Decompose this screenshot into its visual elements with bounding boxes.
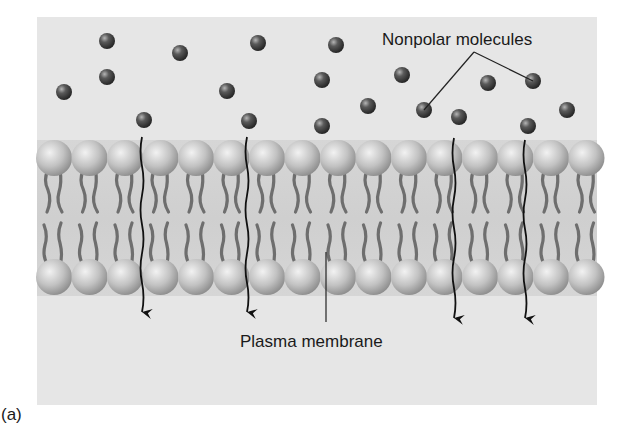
panel-label: (a): [1, 405, 22, 425]
phospholipid-head: [285, 140, 321, 176]
phospholipid-head: [320, 140, 356, 176]
phospholipid-head: [356, 140, 392, 176]
nonpolar-molecules-label: Nonpolar molecules: [382, 30, 532, 50]
nonpolar-molecule: [480, 75, 496, 91]
phospholipid-head: [462, 259, 498, 295]
phospholipid-head: [533, 259, 569, 295]
nonpolar-molecule: [99, 69, 115, 85]
nonpolar-molecule: [559, 102, 575, 118]
nonpolar-molecule: [394, 67, 410, 83]
nonpolar-molecule: [56, 84, 72, 100]
phospholipid-head: [178, 259, 214, 295]
nonpolar-molecule: [520, 118, 536, 134]
nonpolar-molecule: [360, 98, 376, 114]
phospholipid-head: [498, 140, 534, 176]
nonpolar-molecule: [99, 33, 115, 49]
phospholipid-head: [107, 259, 143, 295]
phospholipid-head: [143, 140, 179, 176]
plasma-membrane-label: Plasma membrane: [240, 332, 383, 352]
phospholipid-head: [143, 259, 179, 295]
phospholipid-head: [36, 140, 72, 176]
phospholipid-head: [391, 259, 427, 295]
nonpolar-molecule: [241, 113, 257, 129]
nonpolar-molecule: [219, 83, 235, 99]
phospholipid-head: [391, 140, 427, 176]
phospholipid-head: [249, 140, 285, 176]
phospholipid-head: [249, 259, 285, 295]
membrane-diffusion-diagram: [0, 0, 621, 430]
nonpolar-molecule: [328, 37, 344, 53]
phospholipid-head: [569, 259, 605, 295]
nonpolar-molecule: [250, 35, 266, 51]
nonpolar-molecule: [314, 118, 330, 134]
phospholipid-head: [498, 259, 534, 295]
phospholipid-head: [533, 140, 569, 176]
phospholipid-head: [72, 140, 108, 176]
phospholipid-head: [36, 259, 72, 295]
phospholipid-head: [569, 140, 605, 176]
phospholipid-head: [427, 259, 463, 295]
nonpolar-molecule: [451, 109, 467, 125]
phospholipid-head: [72, 259, 108, 295]
phospholipid-head: [356, 259, 392, 295]
nonpolar-molecule: [314, 72, 330, 88]
phospholipid-head: [178, 140, 214, 176]
phospholipid-head: [214, 259, 250, 295]
phospholipid-head: [214, 140, 250, 176]
phospholipid-head: [427, 140, 463, 176]
nonpolar-molecule: [136, 112, 152, 128]
phospholipid-head: [107, 140, 143, 176]
phospholipid-head: [285, 259, 321, 295]
phospholipid-head: [462, 140, 498, 176]
nonpolar-molecule: [172, 45, 188, 61]
